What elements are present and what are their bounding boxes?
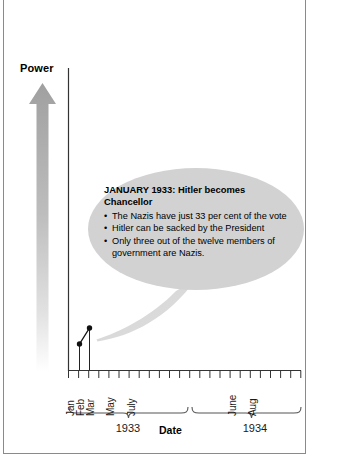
y-axis-label: Power — [20, 62, 54, 74]
x-tick-label-may: May — [105, 397, 116, 416]
figure-page: Power Date Jan Feb Mar May July June Aug… — [0, 0, 345, 469]
callout-bullet-3-line1: Only three out of the twelve members of — [112, 236, 275, 246]
x-axis-label: Date — [159, 424, 182, 436]
power-arrow-icon — [29, 83, 56, 372]
callout-title-line1: JANUARY 1933: Hitler becomes — [104, 184, 245, 195]
callout-bullet-2: Hitler can be sacked by the President — [104, 222, 300, 234]
data-drop-lines — [80, 328, 90, 370]
data-point-feb-1933[interactable] — [87, 325, 92, 330]
x-tick-label-june: June — [227, 395, 238, 416]
x-tick-label-aug: Aug — [247, 399, 258, 417]
data-point-jan-1933[interactable] — [77, 341, 82, 346]
x-axis-ticks — [69, 371, 301, 379]
data-series-line — [80, 328, 90, 344]
callout-bullet-list: The Nazis have just 33 per cent of the v… — [104, 210, 300, 260]
callout-bullet-1: The Nazis have just 33 per cent of the v… — [104, 210, 300, 222]
x-tick-label-july: July — [126, 399, 137, 416]
callout-bullet-3: Only three out of the twelve members of … — [104, 235, 300, 260]
callout-title-line2: Chancellor — [104, 196, 152, 207]
x-tick-label-mar: Mar — [85, 399, 96, 416]
year-label-1934: 1934 — [231, 422, 279, 434]
callout-title: JANUARY 1933: Hitler becomes Chancellor — [104, 184, 300, 209]
year-label-1933: 1933 — [104, 422, 152, 434]
callout-content: JANUARY 1933: Hitler becomes Chancellor … — [104, 184, 300, 259]
callout-bullet-3-line2: government are Nazis. — [112, 248, 204, 258]
